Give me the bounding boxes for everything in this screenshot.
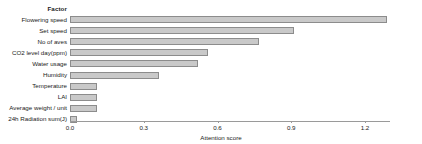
category-label: 24h Radiation sum(J) (8, 115, 67, 122)
x-axis-title-text: Attention score (200, 134, 241, 141)
bar (70, 60, 198, 67)
bar (70, 49, 208, 56)
category-label: LAI (58, 93, 67, 100)
bar (70, 94, 97, 101)
bar (70, 105, 97, 112)
x-tick-label: 1.2 (361, 124, 370, 131)
category-label: Set speed (39, 27, 67, 34)
factor-column-header: Factor (47, 5, 67, 12)
category-label: Temperature (32, 82, 67, 89)
category-label: Humidity (43, 71, 67, 78)
bar (70, 16, 387, 23)
x-axis-line (70, 121, 390, 122)
bar (70, 83, 97, 90)
category-label: CO2 level day(ppm) (12, 49, 67, 56)
x-tick-label: 0.0 (66, 124, 75, 131)
bar (70, 38, 259, 45)
x-tick (365, 121, 366, 123)
category-label: Water usage (32, 60, 67, 67)
x-tick (218, 121, 219, 123)
x-tick (291, 121, 292, 123)
category-label: Average weight / unit (9, 104, 67, 111)
x-tick-label: 0.9 (287, 124, 296, 131)
x-tick (70, 121, 71, 123)
x-tick (144, 121, 145, 123)
attention-score-bar-chart: Factor 0.00.30.60.91.2 Attention score F… (0, 0, 422, 144)
x-tick-label: 0.3 (139, 124, 148, 131)
bar (70, 72, 159, 79)
bar (70, 27, 294, 34)
x-axis-title: Attention score (0, 134, 422, 141)
category-label: No of aves (37, 38, 67, 45)
x-tick-label: 0.6 (213, 124, 222, 131)
category-label: Flowering speed (22, 16, 67, 23)
